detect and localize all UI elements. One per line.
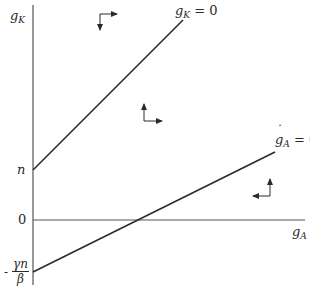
phase-diagram-canvas [0,0,310,296]
fraction-denominator: β [12,272,29,286]
tick-label-neg-sign: - [4,266,8,278]
tick-label-n: n [17,163,25,176]
arrow-pair-middle [144,104,162,121]
tick-label-neg-intercept: γn β [12,257,29,286]
x-axis-label: gA [292,225,307,238]
gk-dot-zero-label: gK = 0 [175,4,218,17]
fraction-numerator: γn [12,257,29,272]
ga-dot-zero-line [33,152,275,272]
arrow-pair-bottom [253,179,270,196]
tick-label-zero: 0 [18,213,26,226]
ga-dot-zero-label: gA = 0 [275,133,310,146]
y-axis-label: gK [10,9,25,22]
arrow-pair-top [100,14,117,30]
gk-dot-zero-line [33,20,183,170]
